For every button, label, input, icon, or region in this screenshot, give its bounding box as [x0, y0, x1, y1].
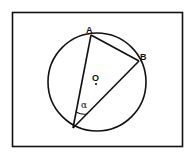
- label-o: O: [92, 73, 99, 83]
- diagram-canvas: A B O α: [0, 0, 194, 157]
- angle-arc: [76, 112, 87, 114]
- center-dot: [95, 83, 97, 85]
- label-alpha: α: [81, 100, 87, 110]
- label-a: A: [86, 25, 93, 35]
- chord-cb: [73, 61, 139, 128]
- label-b: B: [140, 52, 147, 62]
